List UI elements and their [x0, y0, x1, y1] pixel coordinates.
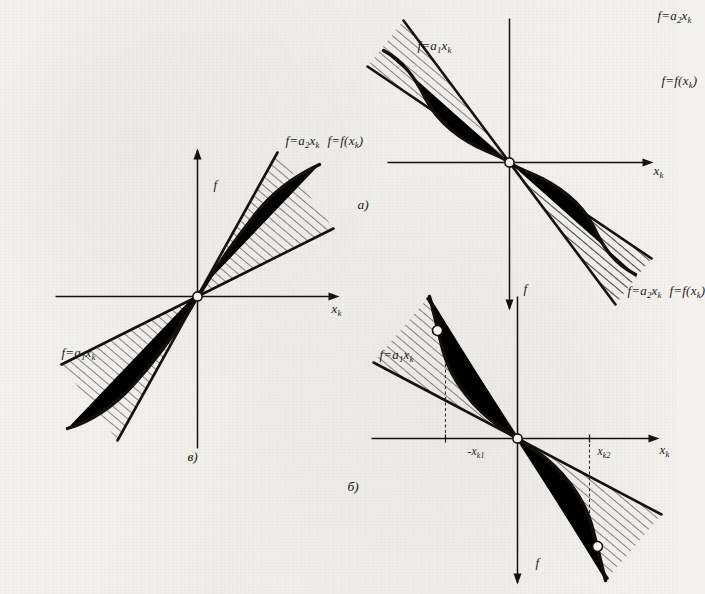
panel-a-label-characteristic: f=f(xk)	[661, 72, 697, 90]
panel-b-plot	[367, 288, 667, 588]
panel-v-vertical-axis-arrow	[328, 292, 339, 300]
panel-b-axis-label-f: f	[535, 554, 539, 570]
panel-b-label-a2: f=a2xk	[627, 282, 661, 300]
panel-b-label-characteristic: f=f(xk)	[669, 282, 705, 300]
panel-a-origin-point	[504, 157, 513, 166]
panel-b-origin-point	[512, 433, 521, 442]
panel-b: f=a2xk f=f(xk) f=a1xk f xk xk2 -xk1	[367, 288, 667, 588]
panel-a-vertical-axis-arrow	[642, 158, 653, 166]
panel-v-axis-label-x: xk	[331, 300, 341, 318]
panel-b-horizontal-axis-arrow	[513, 573, 521, 584]
panel-v-origin-point	[192, 291, 201, 300]
panel-b-vertical-axis-arrow	[648, 434, 659, 442]
panel-v-plot	[47, 136, 347, 456]
panel-b-label-a1: f=a1xk	[379, 346, 413, 364]
panel-v-label-characteristic: f=f(xk)	[327, 132, 363, 150]
panel-v-label-a2: f=a2xk	[285, 132, 319, 150]
panel-b-tag: б)	[347, 478, 358, 494]
panel-v-label-a1: f=a1xk	[61, 344, 95, 362]
panel-v: f=a2xk f=f(xk) f=a1xk f xk	[47, 136, 347, 456]
panel-b-axis-label-x: xk	[659, 441, 669, 459]
panel-v-tag: в)	[187, 448, 197, 464]
panel-a-axis-label-x: xk	[653, 162, 663, 180]
panel-a-plot	[384, 12, 659, 312]
panel-b-contact-point-positive	[592, 541, 602, 551]
panel-a-label-a1: f=a1xk	[417, 37, 451, 55]
panel-b-tick-label-positive: xk2	[597, 444, 610, 459]
panel-v-axis-label-f: f	[213, 176, 217, 192]
panel-a: f=a2xk f=f(xk) f=a1xk f xk	[384, 12, 659, 312]
panel-v-horizontal-axis-arrow	[193, 148, 201, 159]
panel-a-tag: a)	[357, 196, 368, 212]
panel-b-tick-label-negative: -xk1	[467, 444, 484, 459]
panel-b-contact-point-negative	[432, 325, 442, 335]
panel-a-label-a2: f=a2xk	[657, 7, 691, 25]
